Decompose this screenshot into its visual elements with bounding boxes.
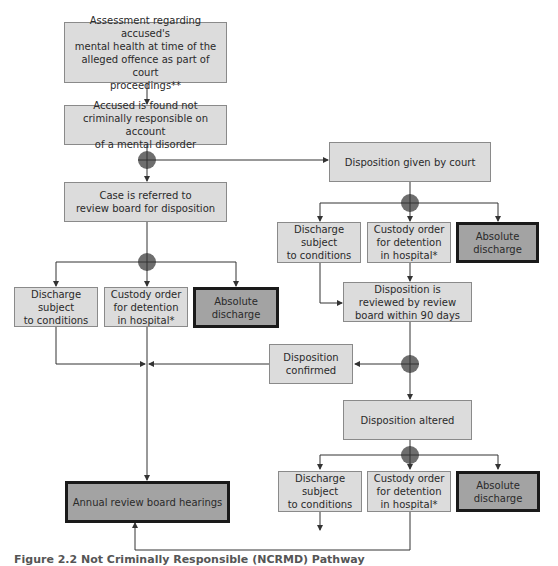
node-label: Disposition altered	[361, 414, 455, 427]
node-reviewed-90-days: Disposition is reviewed by review board …	[343, 282, 472, 322]
node-label: Assessment regarding accused's mental he…	[69, 14, 222, 92]
node-right-custody-order: Custody order for detention in hospital*	[367, 222, 451, 263]
node-disposition-court: Disposition given by court	[329, 142, 491, 182]
node-label: Disposition given by court	[345, 156, 476, 169]
node-label: Discharge subject to conditions	[19, 288, 93, 327]
node-label: Discharge subject to conditions	[282, 223, 356, 262]
node-left-custody-order: Custody order for detention in hospital*	[104, 287, 188, 327]
node-label: Case is referred to review board for dis…	[76, 189, 215, 215]
node-bottom-absolute-discharge: Absolute discharge	[456, 471, 540, 512]
node-label: Disposition confirmed	[283, 351, 338, 377]
node-left-discharge-conditions: Discharge subject to conditions	[14, 287, 98, 327]
node-label: Absolute discharge	[212, 295, 261, 321]
node-annual-review: Annual review board hearings	[65, 481, 230, 523]
node-disposition-altered: Disposition altered	[343, 400, 472, 440]
node-label: Custody order for detention in hospital*	[374, 223, 445, 262]
figure-caption: Figure 2.2 Not Criminally Responsible (N…	[14, 553, 365, 566]
node-label: Accused is found not criminally responsi…	[69, 99, 222, 151]
node-bottom-discharge-conditions: Discharge subject to conditions	[278, 471, 362, 512]
node-label: Custody order for detention in hospital*	[111, 288, 182, 327]
node-right-absolute-discharge: Absolute discharge	[456, 222, 539, 263]
node-label: Annual review board hearings	[73, 496, 223, 509]
node-bottom-custody-order: Custody order for detention in hospital*	[367, 471, 451, 512]
node-label: Custody order for detention in hospital*	[374, 472, 445, 511]
node-referred-review-board: Case is referred to review board for dis…	[64, 182, 227, 222]
node-left-absolute-discharge: Absolute discharge	[193, 287, 279, 328]
node-disposition-confirmed: Disposition confirmed	[269, 344, 353, 384]
node-label: Discharge subject to conditions	[283, 472, 357, 511]
node-label: Disposition is reviewed by review board …	[355, 283, 460, 322]
node-right-discharge-conditions: Discharge subject to conditions	[277, 222, 361, 263]
node-label: Absolute discharge	[474, 479, 523, 505]
node-ncr-finding: Accused is found not criminally responsi…	[64, 105, 227, 145]
node-label: Absolute discharge	[473, 230, 522, 256]
node-assessment: Assessment regarding accused's mental he…	[64, 22, 227, 83]
